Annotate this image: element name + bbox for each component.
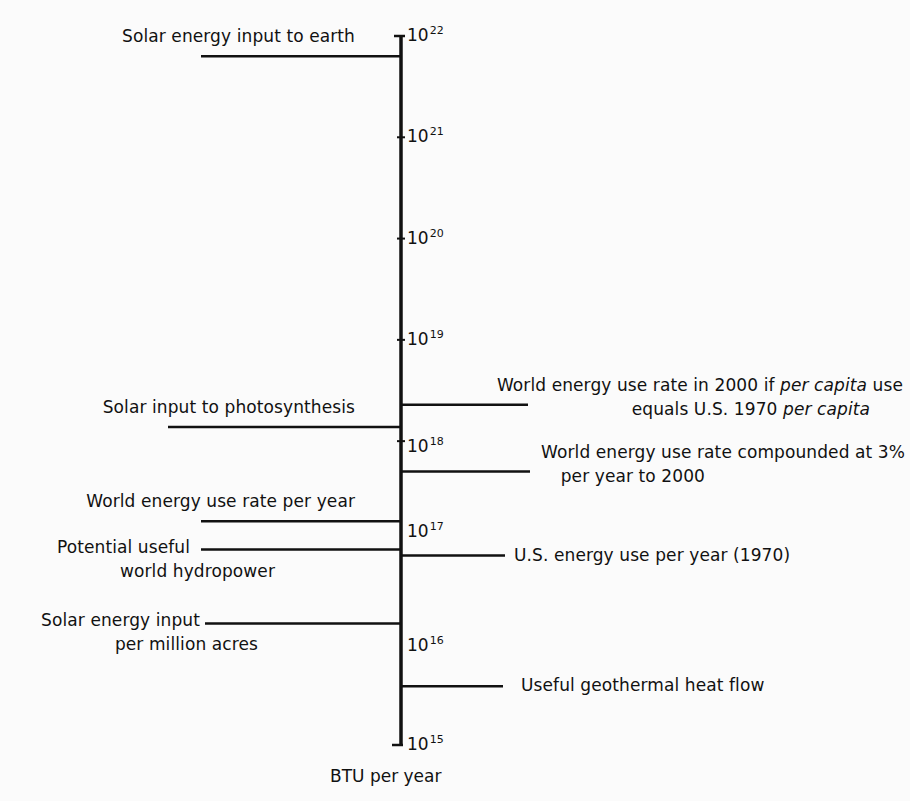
label-us-energy-use-1970: U.S. energy use per year (1970)	[514, 545, 790, 566]
label-world-use-compounded-3pct: World energy use rate compounded at 3%	[541, 442, 905, 463]
tick-label: 1019	[407, 328, 444, 349]
label-world-use-compounded-3pct-line2: per year to 2000	[561, 466, 705, 487]
label-solar-energy-input-to-earth: Solar energy input to earth	[122, 26, 355, 47]
axis-label: BTU per year	[330, 766, 441, 786]
tick-label: 1015	[407, 733, 444, 754]
label-potential-world-hydropower: Potential useful	[57, 537, 190, 558]
label-useful-geothermal-heat-flow: Useful geothermal heat flow	[521, 675, 764, 696]
tick-label: 1018	[407, 435, 444, 456]
label-solar-input-photosynthesis: Solar input to photosynthesis	[103, 397, 355, 418]
tick-label: 1017	[407, 520, 444, 541]
tick-label: 1021	[407, 125, 444, 146]
label-potential-world-hydropower-line2: world hydropower	[120, 561, 275, 582]
label-world-energy-use-per-year: World energy use rate per year	[86, 491, 355, 512]
label-world-use-2000-per-capita: World energy use rate in 2000 if per cap…	[497, 375, 903, 396]
label-solar-input-per-million-acres: Solar energy input	[41, 610, 200, 631]
tick-label: 1022	[407, 24, 444, 45]
tick-label: 1016	[407, 634, 444, 655]
label-solar-input-per-million-acres-line2: per million acres	[115, 634, 258, 655]
label-world-use-2000-per-capita-line2: equals U.S. 1970 per capita	[632, 399, 870, 420]
tick-label: 1020	[407, 227, 444, 248]
